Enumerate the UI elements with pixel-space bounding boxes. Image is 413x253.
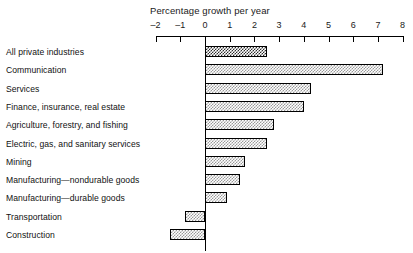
bar <box>205 119 274 130</box>
axis-tick-label: 1 <box>219 20 241 30</box>
axis-tick <box>378 36 379 42</box>
axis-tick <box>279 36 280 42</box>
bar-row: All private industries <box>0 44 413 62</box>
bar <box>205 101 304 112</box>
bar-row: Finance, insurance, real estate <box>0 99 413 117</box>
axis-tick <box>329 36 330 42</box>
bar-category-label: Mining <box>6 157 32 167</box>
axis-tick <box>403 36 404 42</box>
axis-tick-label: 7 <box>367 20 389 30</box>
bar-category-label: Agriculture, forestry, and fishing <box>6 120 128 130</box>
axis-tick-label: 3 <box>268 20 290 30</box>
axis-tick-label: –1 <box>169 20 191 30</box>
bar <box>205 64 383 75</box>
bar-category-label: Communication <box>6 65 66 75</box>
bar <box>185 211 205 222</box>
axis-tick <box>230 36 231 42</box>
bar-row: Agriculture, forestry, and fishing <box>0 117 413 135</box>
bar <box>205 192 227 203</box>
bar-category-label: Transportation <box>6 212 62 222</box>
bar-category-label: All private industries <box>6 47 84 57</box>
bar-chart: Percentage growth per year –2–1012345678… <box>0 0 413 253</box>
bar-category-label: Finance, insurance, real estate <box>6 102 125 112</box>
bar-row: Manufacturing—nondurable goods <box>0 172 413 190</box>
axis-tick-label: 5 <box>318 20 340 30</box>
bar-row: Mining <box>0 154 413 172</box>
bar-row: Construction <box>0 227 413 245</box>
axis-tick <box>353 36 354 42</box>
axis-tick <box>205 36 206 42</box>
axis-tick-label: 6 <box>342 20 364 30</box>
bar-category-label: Manufacturing—nondurable goods <box>6 175 139 185</box>
bar-category-label: Services <box>6 84 39 94</box>
axis-tick <box>254 36 255 42</box>
bar-row: Transportation <box>0 209 413 227</box>
bar <box>205 138 267 149</box>
bar-category-label: Electric, gas, and sanitary services <box>6 139 140 149</box>
axis-tick-label: –2 <box>145 20 167 30</box>
axis-tick-label: 2 <box>243 20 265 30</box>
bar <box>205 46 267 57</box>
axis-tick <box>180 36 181 42</box>
axis-tick-label: 8 <box>392 20 413 30</box>
axis-tick-label: 0 <box>194 20 216 30</box>
bar-category-label: Construction <box>6 230 55 240</box>
bar-row: Services <box>0 81 413 99</box>
bar <box>205 156 245 167</box>
bar-row: Communication <box>0 62 413 80</box>
bar <box>205 174 240 185</box>
bar-category-label: Manufacturing—durable goods <box>6 193 125 203</box>
axis-tick <box>304 36 305 42</box>
bar-row: Manufacturing—durable goods <box>0 190 413 208</box>
bar-row: Electric, gas, and sanitary services <box>0 136 413 154</box>
bar <box>170 229 205 240</box>
axis-tick <box>156 36 157 42</box>
bar <box>205 83 311 94</box>
axis-tick-label: 4 <box>293 20 315 30</box>
